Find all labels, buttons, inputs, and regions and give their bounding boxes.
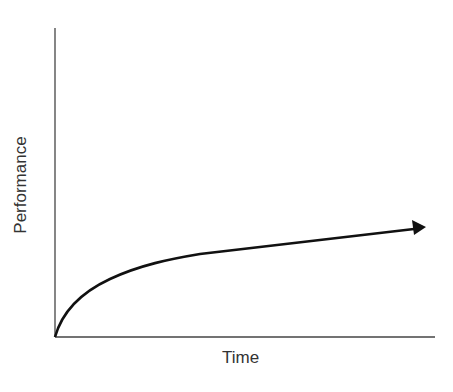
performance-curve [55, 229, 414, 337]
chart-canvas [0, 0, 453, 392]
arrowhead-icon [412, 220, 426, 235]
x-axis-label: Time [222, 348, 259, 368]
y-axis-label: Performance [11, 130, 31, 240]
